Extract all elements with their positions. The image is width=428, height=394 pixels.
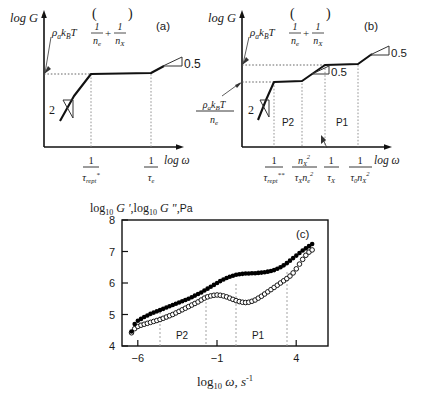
panel-a-annotation-arrow (44, 66, 51, 74)
panel-a-plateau-annotation: ρakBT ( 1 ne + 1 nX ) (51, 6, 133, 48)
panel-a-x-arrow (176, 144, 184, 150)
panel-c-label: (c) (296, 228, 310, 240)
svg-text:5: 5 (109, 309, 115, 321)
panel-a-slope-2-label: 2 (49, 103, 55, 117)
panel-b-region-p2: P2 (282, 117, 295, 128)
panel-a-label: (a) (156, 20, 170, 32)
panel-b-slope-05-high-triangle (370, 46, 389, 55)
svg-text:ne: ne (93, 35, 101, 48)
panel-b-x-tick-2: nX2 τXne2 (292, 153, 317, 184)
svg-text:6: 6 (109, 277, 115, 289)
svg-text:−1: −1 (211, 352, 224, 364)
svg-text:nX: nX (313, 35, 323, 48)
svg-text:ne: ne (291, 35, 299, 48)
data-point (291, 271, 296, 276)
svg-text:1: 1 (118, 21, 123, 32)
panel-c-region-p2: P2 (176, 330, 189, 341)
panel-c-x-ticks: −6 −1 4 (132, 340, 300, 364)
panel-b: 2 0.5 0.5 log G ' ρakBT ( 1 ne + 1 nX ) … (192, 4, 428, 199)
panel-b-x-tick-4: 1 τ0nX2 (349, 155, 372, 184)
panel-c-x-axis-title: log10 ω, s-1 (197, 373, 253, 391)
panel-c: log10 G ',log10 G ",Pa 8 7 6 5 4 −6 −1 4… (58, 196, 378, 392)
panel-c-y-ticks: 8 7 6 5 4 (109, 214, 128, 352)
panel-a-y-axis-label: log G ' (10, 11, 44, 25)
panel-a-x-axis-label: log ω (164, 154, 190, 167)
svg-text:ρakBT: ρakBT (202, 99, 227, 112)
panel-b-slope-05-mid-label: 0.5 (331, 66, 347, 78)
data-point (310, 248, 315, 253)
svg-text:1: 1 (328, 155, 333, 166)
svg-text:(: ( (290, 6, 295, 22)
svg-text:−6: −6 (132, 352, 145, 364)
svg-text:τe: τe (148, 172, 155, 184)
svg-text:): ) (128, 6, 133, 22)
svg-text:(: ( (92, 6, 97, 22)
svg-text:1: 1 (95, 21, 100, 32)
svg-text:): ) (326, 6, 331, 22)
panel-b-plateau-annotation: ρakBT ( 1 ne + 1 nX ) (249, 6, 331, 48)
panel-b-slope-2-label: 2 (248, 103, 254, 117)
panel-b-x-arrow (384, 144, 392, 150)
panel-a-x-tick-2: 1 τe (144, 155, 158, 184)
svg-text:4: 4 (109, 340, 115, 352)
panel-a-x-tick-1: 1 τrept* (82, 155, 100, 184)
panel-b-master-curve (258, 54, 372, 120)
svg-text:1: 1 (316, 21, 321, 32)
svg-text:nX2: nX2 (298, 153, 311, 167)
panel-b-annotation-arrow (242, 57, 249, 65)
panel-b-annotation2-arrow (235, 82, 242, 88)
svg-text:1: 1 (148, 155, 153, 166)
svg-text:τrept**: τrept** (264, 171, 286, 184)
svg-text:nX: nX (115, 35, 125, 48)
figure-container: 2 0.5 log G ' ρakBT ( 1 ne + 1 nX ) (a) … (0, 0, 428, 394)
panel-b-x-axis-label: log ω (374, 154, 400, 167)
svg-text:1: 1 (293, 21, 298, 32)
svg-text:ρakBT: ρakBT (249, 26, 276, 41)
svg-text:τrept*: τrept* (82, 171, 100, 184)
panel-a: 2 0.5 log G ' ρakBT ( 1 ne + 1 nX ) (a) … (4, 4, 204, 199)
panel-b-second-plateau-annotation: ρakBT ne (196, 99, 234, 127)
svg-text:1: 1 (357, 155, 362, 166)
svg-text:ne: ne (210, 114, 218, 127)
panel-c-region-p1: P1 (252, 330, 265, 341)
svg-text:+: + (303, 27, 309, 39)
panel-a-slope-2-triangle (63, 100, 73, 118)
svg-text:τX: τX (327, 172, 336, 184)
panel-b-y-axis-label: log G ' (208, 11, 242, 25)
svg-text:+: + (105, 27, 111, 39)
svg-text:ρakBT: ρakBT (51, 26, 78, 41)
data-point (294, 267, 299, 272)
panel-b-x-tick-3: 1 τX (324, 155, 339, 184)
svg-text:1: 1 (271, 155, 276, 166)
svg-text:4: 4 (293, 352, 299, 364)
data-point (300, 257, 305, 262)
svg-text:τ0nX2: τ0nX2 (350, 170, 370, 184)
svg-text:τXne2: τXne2 (295, 170, 314, 184)
panel-b-x-tick-1: 1 τrept** (264, 155, 286, 184)
panel-b-taux-arrow (321, 135, 326, 144)
svg-text:8: 8 (109, 214, 115, 226)
panel-b-region-p1: P1 (336, 117, 349, 128)
data-point (310, 242, 315, 247)
panel-c-y-axis-title: log10 G ',log10 G ",Pa (90, 201, 193, 217)
panel-a-slope-05-triangle (163, 57, 182, 66)
data-point (297, 262, 302, 267)
panel-b-label: (b) (364, 20, 378, 32)
panel-b-slope-05-high-label: 0.5 (391, 47, 407, 59)
svg-text:7: 7 (109, 246, 115, 258)
data-point (129, 329, 134, 334)
svg-text:1: 1 (88, 155, 93, 166)
